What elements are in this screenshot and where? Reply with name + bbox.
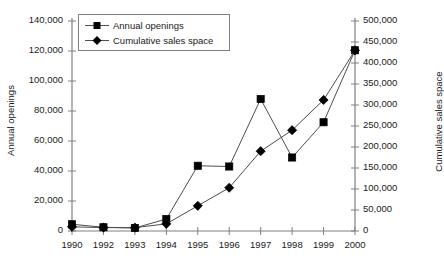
left-tick-label: 60,000	[0, 135, 63, 145]
series-group	[67, 46, 359, 232]
right-tick-label: 0	[363, 225, 368, 235]
legend-label: Cumulative sales space	[113, 35, 213, 46]
right-tick-label: 150,000	[363, 162, 397, 172]
data-point-marker	[194, 162, 201, 169]
legend: Annual openings Cumulative sales space	[78, 14, 230, 51]
right-tick-label: 300,000	[363, 99, 397, 109]
left-tick-label: 40,000	[0, 165, 63, 175]
legend-item-annual-openings: Annual openings	[84, 18, 184, 33]
right-tick-label: 250,000	[363, 120, 397, 130]
right-tick-label: 200,000	[363, 141, 397, 151]
data-point-marker	[257, 95, 264, 102]
left-tick-label: 80,000	[0, 105, 63, 115]
left-tick-label: 20,000	[0, 195, 63, 205]
legend-label: Annual openings	[113, 20, 184, 31]
right-tick-label: 500,000	[363, 15, 397, 25]
right-tick-label: 100,000	[363, 183, 397, 193]
data-point-marker	[320, 119, 327, 126]
right-tick-label: 400,000	[363, 57, 397, 67]
left-tick-label: 100,000	[0, 75, 63, 85]
left-tick-label: 120,000	[0, 45, 63, 55]
legend-item-cumulative-sales-space: Cumulative sales space	[84, 33, 213, 48]
left-tick-label: 140,000	[0, 15, 63, 25]
legend-square-marker-icon	[84, 19, 110, 32]
legend-diamond-marker-icon	[84, 34, 110, 47]
left-tick-label: 0	[0, 225, 63, 235]
right-tick-label: 450,000	[363, 36, 397, 46]
data-point-marker	[193, 201, 202, 210]
data-point-marker	[289, 154, 296, 161]
right-tick-label: 50,000	[363, 204, 392, 214]
data-point-marker	[226, 163, 233, 170]
x-tick-label: 2000	[335, 240, 375, 250]
right-tick-label: 350,000	[363, 78, 397, 88]
